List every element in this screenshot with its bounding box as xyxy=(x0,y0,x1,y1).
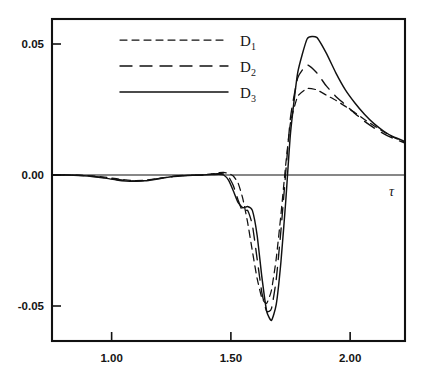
legend-label-d3: D xyxy=(240,85,251,101)
chart-figure: 0.050.00-0.05 1.001.502.00 τ D1D2D3 xyxy=(0,0,430,384)
curve-d2 xyxy=(52,65,405,312)
legend-label-d2: D xyxy=(240,59,251,75)
x-axis-label: τ xyxy=(389,184,395,199)
curve-d1 xyxy=(52,88,405,303)
legend: D1D2D3 xyxy=(120,33,256,104)
x-axis-label-group: τ xyxy=(389,184,395,199)
y-tick-label-1: 0.00 xyxy=(22,169,44,181)
x-tick-label-1: 1.50 xyxy=(220,352,242,364)
y-tick-label-0: 0.05 xyxy=(22,38,45,50)
y-tick-label-2: -0.05 xyxy=(18,300,45,312)
curve-d3 xyxy=(52,37,405,321)
legend-label-d1: D xyxy=(240,33,251,49)
line-chart: 0.050.00-0.05 1.001.502.00 τ D1D2D3 xyxy=(0,0,430,384)
x-tick-label-2: 2.00 xyxy=(339,352,361,364)
legend-subscript-2: 2 xyxy=(251,67,256,78)
x-tick-labels: 1.001.502.00 xyxy=(100,352,361,364)
x-axis-ticks xyxy=(112,332,351,341)
legend-subscript-1: 1 xyxy=(251,41,256,52)
x-tick-label-0: 1.00 xyxy=(100,352,122,364)
data-curves xyxy=(52,37,405,321)
legend-subscript-3: 3 xyxy=(251,93,256,104)
y-tick-labels: 0.050.00-0.05 xyxy=(18,38,45,312)
